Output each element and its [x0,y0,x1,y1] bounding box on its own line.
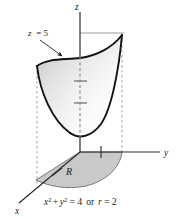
plane-label-value: = 5 [36,28,48,38]
plane-z-equals-5-label: z = 5 [27,28,49,38]
figure-container: z y x z = 5 R x2+y2= 4orr= 2 [0,0,177,219]
z-axis-label: z [74,2,79,12]
boundary-equation-label: x2+y2= 4orr= 2 [43,196,117,208]
y-axis-label: y [163,148,169,158]
plane-label-variable: z [27,28,32,38]
region-R-label: R [65,166,72,177]
paraboloid-figure-svg: z y x z = 5 R x2+y2= 4orr= 2 [0,0,177,219]
eqn-r-var: r [98,197,102,207]
eqn-or-word: or [86,197,95,207]
eqn-x-exponent: 2 [48,196,51,203]
eqn-equals-two: = 2 [104,197,117,207]
eqn-plus-sign: + [53,197,58,207]
eqn-equals-four: = 4 [70,197,83,207]
x-axis-label: x [14,206,20,216]
eqn-y-exponent: 2 [64,196,67,203]
